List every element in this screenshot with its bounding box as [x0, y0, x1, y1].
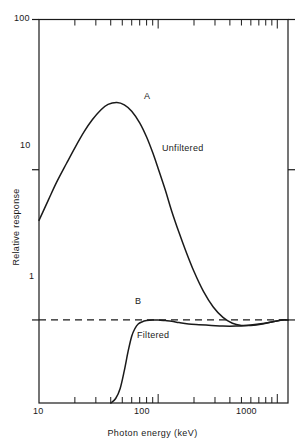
right-axis-ticks	[288, 20, 295, 320]
y-tick-label-1: 1	[29, 271, 34, 281]
annotation-filtered: Filtered	[137, 330, 169, 340]
chart-figure: 100 10 1 10 100 1000 Photon energy (keV)…	[0, 0, 305, 448]
series-line-unfiltered	[39, 103, 288, 326]
y-tick-label-10: 10	[20, 140, 30, 150]
x-tick-label-100: 100	[134, 406, 150, 416]
bottom-axis-ticks	[75, 394, 277, 403]
chart-plot-area	[0, 0, 305, 448]
top-axis-ticks	[75, 20, 277, 29]
x-axis-title: Photon energy (keV)	[0, 428, 305, 438]
plot-frame	[39, 20, 288, 404]
annotation-curve-a: A	[144, 91, 150, 101]
y-axis-title: Relative response	[11, 167, 21, 287]
y-tick-label-100: 100	[14, 13, 30, 23]
x-tick-label-1000: 1000	[236, 406, 257, 416]
x-tick-label-10: 10	[33, 406, 43, 416]
annotation-curve-b: B	[135, 296, 141, 306]
annotation-unfiltered: Unfiltered	[162, 143, 204, 153]
